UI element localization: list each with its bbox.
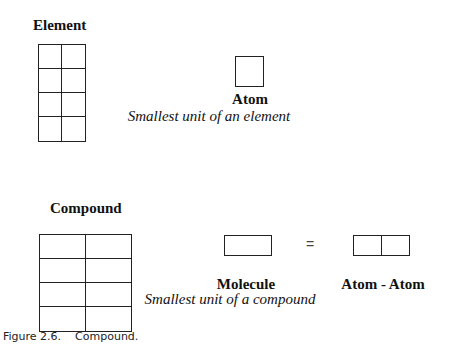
atom-atom-rectangle — [353, 235, 410, 256]
element-grid-cell — [39, 117, 62, 141]
figure-number: Figure 2.6. — [3, 330, 61, 343]
equals-sign: = — [306, 236, 314, 252]
element-grid-cell — [62, 45, 85, 69]
atom-atom-left-cell — [354, 236, 382, 255]
figure-title: Compound. — [75, 330, 138, 343]
molecule-label: Molecule — [196, 276, 296, 292]
figure-caption: Figure 2.6. Compound. — [3, 330, 138, 343]
element-grid-cell — [39, 93, 62, 117]
element-title: Element — [33, 17, 86, 33]
compound-grid-cell — [86, 259, 132, 283]
atom-atom-right-cell — [382, 236, 410, 255]
atom-description: Smallest unit of an element — [100, 108, 318, 124]
element-grid-cell — [62, 69, 85, 93]
compound-grid — [39, 234, 132, 332]
compound-title: Compound — [50, 200, 122, 216]
compound-grid-cell — [86, 235, 132, 259]
compound-grid-cell — [86, 307, 132, 331]
atom-square — [235, 56, 264, 87]
element-grid — [38, 44, 86, 142]
compound-grid-cell — [40, 259, 86, 283]
compound-grid-cell — [40, 283, 86, 307]
compound-grid-cell — [40, 235, 86, 259]
element-grid-cell — [62, 117, 85, 141]
atom-atom-label: Atom - Atom — [328, 276, 438, 292]
compound-grid-cell — [40, 307, 86, 331]
atom-label: Atom — [200, 91, 300, 107]
molecule-description: Smallest unit of a compound — [120, 291, 340, 307]
element-grid-cell — [62, 93, 85, 117]
element-grid-cell — [39, 69, 62, 93]
molecule-rectangle — [224, 235, 272, 256]
element-grid-cell — [39, 45, 62, 69]
